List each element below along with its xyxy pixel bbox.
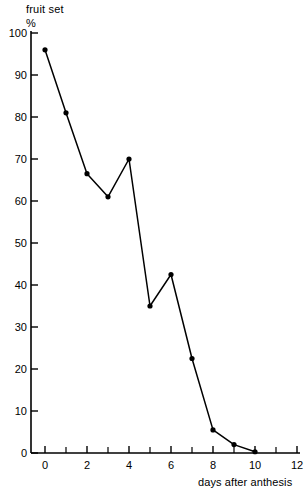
data-point xyxy=(147,303,152,308)
x-tick-label: 10 xyxy=(249,459,261,471)
data-point xyxy=(63,110,68,115)
data-point xyxy=(252,449,257,454)
data-point xyxy=(126,156,131,161)
data-point xyxy=(84,171,89,176)
data-point xyxy=(189,356,194,361)
data-point xyxy=(231,442,236,447)
data-point xyxy=(42,47,47,52)
x-axis-tick-labels: 024681012 xyxy=(42,459,303,471)
data-point xyxy=(210,427,215,432)
y-axis-tick-labels: 0102030405060708090100 xyxy=(9,27,27,459)
y-axis: 0102030405060708090100 xyxy=(9,27,38,459)
y-tick-label: 40 xyxy=(15,279,27,291)
plot-area: 0102030405060708090100 024681012 xyxy=(0,0,306,494)
data-point xyxy=(168,272,173,277)
x-axis-title: days after anthesis xyxy=(198,476,292,488)
y-tick-label: 0 xyxy=(21,447,27,459)
x-tick-label: 0 xyxy=(42,459,48,471)
series-line-path xyxy=(45,50,255,452)
y-tick-label: 70 xyxy=(15,153,27,165)
x-tick-label: 4 xyxy=(126,459,132,471)
y-tick-label: 60 xyxy=(15,195,27,207)
x-tick-label: 2 xyxy=(84,459,90,471)
fruit-set-line-chart: fruit set % 0102030405060708090100 02468… xyxy=(0,0,306,494)
x-tick-label: 6 xyxy=(168,459,174,471)
y-tick-label: 20 xyxy=(15,363,27,375)
y-tick-label: 10 xyxy=(15,405,27,417)
x-axis-ticks xyxy=(45,446,297,453)
data-point xyxy=(105,194,110,199)
y-tick-label: 80 xyxy=(15,111,27,123)
y-tick-label: 100 xyxy=(9,27,27,39)
y-tick-label: 30 xyxy=(15,321,27,333)
series-markers xyxy=(42,47,257,454)
x-tick-label: 12 xyxy=(291,459,303,471)
y-tick-label: 50 xyxy=(15,237,27,249)
x-axis: 024681012 xyxy=(31,446,303,471)
y-tick-label: 90 xyxy=(15,69,27,81)
y-axis-ticks xyxy=(31,33,38,453)
x-tick-label: 8 xyxy=(210,459,216,471)
data-series-fruit-set xyxy=(42,47,257,454)
